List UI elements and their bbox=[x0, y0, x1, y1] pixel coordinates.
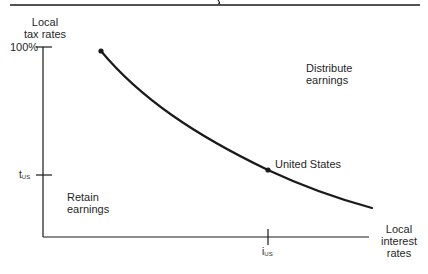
x-tick-label-ius-sub: US bbox=[264, 251, 273, 257]
diagram-svg bbox=[0, 0, 428, 274]
united-states-point bbox=[265, 167, 270, 172]
y-tick-label-tus: tUS bbox=[19, 169, 31, 182]
united-states-label: United States bbox=[275, 158, 341, 170]
region-retain-line-2: earnings bbox=[67, 203, 109, 215]
region-label-retain: Retain earnings bbox=[67, 191, 109, 215]
y-axis-label-line-2: tax rates bbox=[20, 28, 70, 40]
y-axis-label-line-1: Local bbox=[20, 16, 70, 28]
x-axis-label-line-3: rates bbox=[372, 247, 426, 259]
region-distribute-line-2: earnings bbox=[306, 74, 352, 86]
x-axis-label: Local interest rates bbox=[372, 223, 426, 259]
x-axis-label-line-1: Local bbox=[372, 223, 426, 235]
cropped-title-glyph bbox=[218, 0, 220, 4]
y-tick-label-100: 100% bbox=[10, 41, 38, 53]
y-tick-label-tus-sub: US bbox=[22, 174, 31, 180]
region-distribute-line-1: Distribute bbox=[306, 62, 352, 74]
diagram-canvas: Local tax rates 100% tUS iUS Local inter… bbox=[0, 0, 428, 274]
x-tick-label-ius: iUS bbox=[262, 246, 273, 259]
x-axis-label-line-2: interest bbox=[372, 235, 426, 247]
curve-start-point bbox=[98, 48, 103, 53]
region-label-distribute: Distribute earnings bbox=[306, 62, 352, 86]
y-axis-label: Local tax rates bbox=[20, 16, 70, 40]
region-retain-line-1: Retain bbox=[67, 191, 109, 203]
